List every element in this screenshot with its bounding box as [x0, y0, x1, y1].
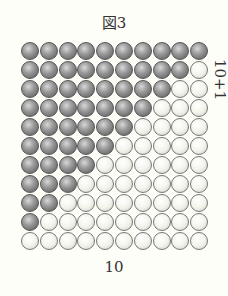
light-ball	[134, 137, 152, 155]
dark-ball	[190, 42, 208, 60]
light-ball	[190, 118, 208, 136]
dark-ball	[21, 61, 39, 79]
dark-ball	[153, 61, 171, 79]
light-ball	[96, 213, 114, 231]
light-ball	[190, 80, 208, 98]
light-ball	[153, 99, 171, 117]
dark-ball	[40, 194, 58, 212]
light-ball	[115, 232, 133, 250]
light-ball	[115, 213, 133, 231]
dark-ball	[21, 118, 39, 136]
light-ball	[190, 232, 208, 250]
dark-ball	[134, 99, 152, 117]
light-ball	[171, 80, 189, 98]
side-label: 10+1	[211, 59, 228, 99]
dark-ball	[96, 118, 114, 136]
bottom-label: 10	[0, 258, 228, 276]
light-ball	[153, 232, 171, 250]
light-ball	[59, 194, 77, 212]
dark-ball	[21, 42, 39, 60]
dark-ball	[115, 42, 133, 60]
light-ball	[40, 232, 58, 250]
light-ball	[171, 194, 189, 212]
dark-ball	[153, 42, 171, 60]
light-ball	[153, 175, 171, 193]
dark-ball	[171, 61, 189, 79]
dark-ball	[77, 156, 95, 174]
dark-ball	[77, 80, 95, 98]
dark-ball	[40, 80, 58, 98]
dark-ball	[77, 99, 95, 117]
dark-ball	[77, 42, 95, 60]
dark-ball	[134, 42, 152, 60]
dark-ball	[21, 99, 39, 117]
dark-ball	[171, 42, 189, 60]
dark-ball	[77, 61, 95, 79]
dark-ball	[115, 99, 133, 117]
dark-ball	[21, 194, 39, 212]
dark-ball	[40, 99, 58, 117]
light-ball	[134, 213, 152, 231]
dark-ball	[59, 80, 77, 98]
dark-ball	[21, 156, 39, 174]
dark-ball	[96, 80, 114, 98]
dark-ball	[59, 137, 77, 155]
light-ball	[171, 99, 189, 117]
light-ball	[171, 156, 189, 174]
light-ball	[77, 213, 95, 231]
light-ball	[134, 175, 152, 193]
dark-ball	[40, 42, 58, 60]
dark-ball	[21, 137, 39, 155]
light-ball	[77, 194, 95, 212]
light-ball	[190, 213, 208, 231]
light-ball	[134, 156, 152, 174]
figure-title: 図3	[0, 11, 228, 32]
dark-ball	[40, 61, 58, 79]
dark-ball	[96, 137, 114, 155]
light-ball	[96, 194, 114, 212]
light-ball	[40, 213, 58, 231]
dark-ball	[96, 61, 114, 79]
ball-grid	[21, 42, 209, 251]
light-ball	[171, 213, 189, 231]
light-ball	[190, 194, 208, 212]
light-ball	[59, 232, 77, 250]
dark-ball	[21, 213, 39, 231]
light-ball	[96, 175, 114, 193]
light-ball	[153, 118, 171, 136]
light-ball	[96, 156, 114, 174]
dark-ball	[153, 80, 171, 98]
light-ball	[77, 175, 95, 193]
light-ball	[115, 175, 133, 193]
dark-ball	[21, 175, 39, 193]
light-ball	[190, 137, 208, 155]
dark-ball	[59, 61, 77, 79]
light-ball	[171, 175, 189, 193]
light-ball	[134, 232, 152, 250]
light-ball	[171, 137, 189, 155]
dark-ball	[134, 80, 152, 98]
dark-ball	[59, 156, 77, 174]
dark-ball	[115, 61, 133, 79]
light-ball	[96, 232, 114, 250]
light-ball	[190, 61, 208, 79]
light-ball	[190, 156, 208, 174]
dark-ball	[21, 80, 39, 98]
light-ball	[171, 118, 189, 136]
dark-ball	[59, 42, 77, 60]
light-ball	[190, 175, 208, 193]
light-ball	[21, 232, 39, 250]
light-ball	[153, 156, 171, 174]
dark-ball	[77, 118, 95, 136]
light-ball	[77, 232, 95, 250]
light-ball	[115, 156, 133, 174]
dark-ball	[134, 61, 152, 79]
light-ball	[171, 232, 189, 250]
light-ball	[115, 194, 133, 212]
light-ball	[59, 213, 77, 231]
dark-ball	[96, 42, 114, 60]
light-ball	[134, 194, 152, 212]
light-ball	[115, 137, 133, 155]
light-ball	[153, 213, 171, 231]
dark-ball	[40, 118, 58, 136]
